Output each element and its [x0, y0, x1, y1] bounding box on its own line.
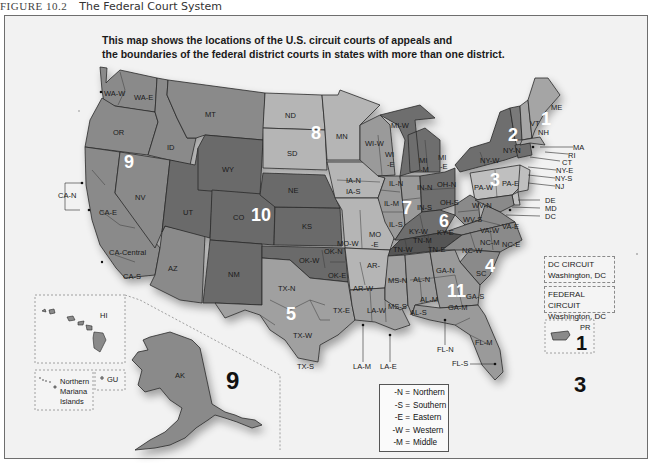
- label-vt: VT: [530, 119, 540, 128]
- label-il-n: IL-N: [389, 179, 403, 188]
- label-gu: GU: [107, 375, 118, 384]
- label-nc-e: NC-E: [502, 240, 520, 249]
- court-seat-dot: [532, 146, 535, 149]
- label-ar-w: AR-W: [353, 284, 374, 293]
- label-nc-m: NC-M: [480, 238, 500, 247]
- label-ar-e: AR-: [367, 261, 380, 270]
- label-al-m: AL-M: [420, 295, 438, 304]
- guam-island: [101, 377, 104, 380]
- circuit-number-2: 2: [508, 125, 518, 145]
- label-ks: KS: [302, 222, 312, 231]
- label-hi: HI: [100, 311, 108, 320]
- label-va-w: VA-W: [480, 226, 500, 235]
- hawaii-inset-box: [35, 295, 125, 363]
- label-ne: NE: [288, 186, 298, 195]
- label-co: CO: [233, 213, 244, 222]
- legend-row-western: -W =Western: [384, 425, 448, 438]
- label-ny-w: NY-W: [480, 156, 500, 165]
- label-nd: ND: [285, 111, 296, 120]
- label-dc: DC: [545, 212, 556, 221]
- label-ia-s: IA-S: [346, 187, 361, 196]
- circuit-number-8: 8: [311, 123, 321, 143]
- court-seat-dot: [88, 209, 91, 212]
- hawaii-island: [49, 309, 55, 314]
- region-ak: [132, 332, 262, 450]
- court-seat-dot: [494, 363, 497, 366]
- circuit-number-9: 9: [124, 152, 134, 172]
- mariana-island: [39, 377, 41, 379]
- court-seat-dot: [509, 209, 512, 212]
- court-seat-dot: [444, 319, 447, 322]
- hawaii-island: [86, 325, 92, 330]
- label-il-m: IL-M: [384, 199, 399, 208]
- dc-circuit-box: DC CIRCUIT Washington, DC: [544, 256, 615, 283]
- dc-circuit-location: Washington, DC: [548, 270, 611, 281]
- label-ny-n: NY-N: [503, 146, 521, 155]
- circuit-number-10: 10: [251, 205, 271, 225]
- label-islands: Islands: [60, 397, 84, 406]
- leader-dc: [506, 215, 540, 216]
- label-mi-m: MI: [419, 156, 427, 165]
- label-id: ID: [167, 143, 175, 152]
- label-mo-e-suffix: -E: [371, 240, 379, 249]
- label-in-n: IN-N: [417, 183, 432, 192]
- label-ca-central: CA-Central: [109, 248, 146, 257]
- circuit-number-9-alaska: 9: [226, 367, 239, 394]
- circuit-number-4: 4: [485, 256, 495, 276]
- label-tx-e: TX-E: [333, 306, 350, 315]
- label-ms-n: MS-N: [388, 276, 407, 285]
- label-mi-w: MI-W: [391, 121, 410, 130]
- circuit-number-7: 7: [402, 198, 412, 218]
- label-ok-w: OK-W: [299, 256, 320, 265]
- label-mariana: Mariana: [60, 387, 88, 396]
- label-fl-s: FL-S: [452, 359, 468, 368]
- label-al-s: AL-S: [410, 308, 427, 317]
- speck: [636, 253, 638, 255]
- label-or: OR: [113, 128, 125, 137]
- label-fl-m: FL-M: [475, 338, 493, 347]
- circuit-number-1-pr: 1: [576, 332, 587, 354]
- label-mt: MT: [205, 110, 216, 119]
- label-ga-s: GA-S: [466, 292, 484, 301]
- legend-row-eastern: -E =Eastern: [384, 412, 448, 425]
- label-wv-n: WV-N: [472, 201, 492, 210]
- label-tx-w: TX-W: [293, 331, 313, 340]
- court-seat-dot: [81, 182, 84, 185]
- label-oh-n: OH-N: [437, 180, 456, 189]
- federal-circuit-box: FEDERAL CIRCUIT Washington, DC: [544, 286, 615, 313]
- court-seat-dot: [100, 91, 103, 94]
- region-nj: [518, 165, 530, 192]
- leader-ny-e: [528, 167, 556, 170]
- label-wy: WY: [222, 165, 234, 174]
- label-northern: Northern: [60, 377, 89, 386]
- label-al-n: AL-N: [413, 275, 430, 284]
- label-mi-e: MI: [438, 153, 446, 162]
- label-nv: NV: [135, 193, 145, 202]
- circuit-number-5: 5: [286, 304, 296, 324]
- label-ga-m: GA-M: [448, 303, 468, 312]
- label-ok-e: OK-E: [328, 271, 346, 280]
- court-seat-dot: [362, 324, 365, 327]
- label-ca-s: CA-S: [123, 272, 141, 281]
- label-me: ME: [551, 103, 562, 112]
- label-ak: AK: [175, 371, 185, 380]
- mariana-island: [42, 379, 44, 381]
- label-ga-n: GA-N: [436, 266, 455, 275]
- label-fl-n: FL-N: [437, 345, 454, 354]
- district-legend: -N =Northern -S =Southern -E =Eastern -W…: [379, 384, 449, 452]
- leader-nj: [528, 183, 555, 186]
- leader-md: [512, 207, 540, 208]
- label-wi-e: WI: [385, 150, 394, 159]
- label-mi-e-suffix: -E: [440, 162, 448, 171]
- label-wv-s: WV-S: [463, 215, 482, 224]
- dc-circuit-name: DC CIRCUIT: [548, 259, 611, 270]
- label-nm: NM: [228, 270, 240, 279]
- label-ca-n: CA-N: [58, 191, 76, 200]
- label-mi-m-suffix: -M: [420, 165, 429, 174]
- leader-ri: [545, 152, 568, 154]
- circuit-number-6: 6: [439, 211, 449, 231]
- label-tn-e: TN-E: [428, 245, 446, 254]
- label-in-s: IN-S: [417, 203, 432, 212]
- mariana-island: [45, 380, 47, 382]
- circuit-number-3: 3: [490, 170, 500, 190]
